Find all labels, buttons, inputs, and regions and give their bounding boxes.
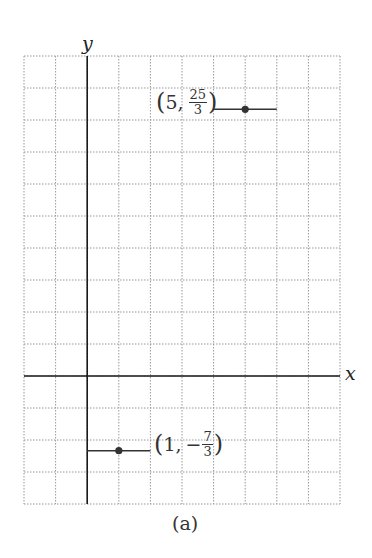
open-paren: ( <box>154 432 163 456</box>
minus-sign: − <box>186 435 202 454</box>
x-value: 5, <box>165 93 183 112</box>
open-paren: ( <box>156 90 165 114</box>
denominator: 3 <box>194 103 202 117</box>
numerator: 25 <box>189 88 208 103</box>
point-label-lower: ( 1, − 7 3 ) <box>154 430 223 458</box>
y-axis-label: y <box>82 34 93 53</box>
y-fraction: 7 3 <box>202 430 212 458</box>
y-fraction: 25 3 <box>189 88 208 116</box>
point-label-upper: ( 5, 25 3 ) <box>156 88 217 116</box>
close-paren: ) <box>208 90 217 114</box>
data-point <box>242 106 249 113</box>
numerator: 7 <box>202 430 212 445</box>
x-axis-label: x <box>345 364 356 383</box>
close-paren: ) <box>214 432 223 456</box>
x-value: 1, <box>163 435 181 454</box>
chart-plot <box>0 0 372 558</box>
figure-caption: (a) <box>172 512 198 534</box>
data-point <box>115 447 122 454</box>
denominator: 3 <box>203 445 211 459</box>
